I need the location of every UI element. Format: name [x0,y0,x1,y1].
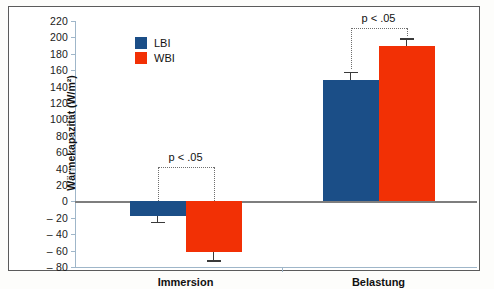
y-tick-mark [71,169,75,170]
significance-bracket-leg [214,167,215,201]
significance-bracket-leg [407,28,408,35]
significance-bracket-leg [158,167,159,201]
y-tick-label: 40 [56,163,68,175]
y-tick-label: 120 [50,97,68,109]
y-tick-mark [71,103,75,104]
x-axis-group-separator [282,267,283,272]
bar-lbi-belastung [323,80,379,201]
significance-label: p < .05 [169,151,203,163]
y-tick-mark [71,234,75,235]
y-tick-label: 20 [56,179,68,191]
y-tick-mark [71,21,75,22]
legend: LBIWBI [135,37,175,67]
significance-label: p < .05 [362,12,396,24]
y-tick-label: 220 [50,15,68,27]
legend-item-wbi[interactable]: WBI [135,52,175,64]
y-tick-label: 60 [56,146,68,158]
y-tick-mark [71,185,75,186]
x-axis-label-belastung: Belastung [352,276,405,288]
y-tick-label: 80 [56,130,68,142]
y-tick-label: 100 [50,113,68,125]
y-tick-label: 180 [50,48,68,60]
y-tick-mark [71,87,75,88]
y-tick-mark [71,37,75,38]
x-axis-label-immersion: Immersion [158,276,214,288]
error-bar-stem [213,252,215,260]
error-bar-cap [400,38,414,40]
legend-swatch-lbi-icon [135,37,147,49]
y-tick-label: – 20 [47,212,68,224]
legend-swatch-wbi-icon [135,52,147,64]
y-tick-mark [71,218,75,219]
y-tick-label: 160 [50,64,68,76]
y-tick-label: – 60 [47,245,68,257]
x-axis-line [75,267,477,268]
significance-bracket-top [158,167,214,168]
y-tick-label: 200 [50,31,68,43]
y-tick-mark [71,54,75,55]
y-tick-mark [71,119,75,120]
bar-wbi-belastung [379,46,435,202]
bar-wbi-immersion [186,201,242,252]
legend-label: LBI [154,37,171,49]
error-bar-cap [344,72,358,74]
y-tick-label: – 80 [47,261,68,273]
y-tick-label: 140 [50,81,68,93]
y-tick-mark [71,152,75,153]
y-tick-mark [71,136,75,137]
chart-figure: Wärmekapazität (W/m²) 220200180160140120… [0,0,494,289]
error-bar-cap [207,260,221,262]
bar-lbi-immersion [130,201,186,216]
significance-bracket-leg [351,28,352,69]
significance-bracket-top [351,28,407,29]
legend-label: WBI [154,52,175,64]
y-tick-mark [71,70,75,71]
chart-frame: Wärmekapazität (W/m²) 220200180160140120… [8,6,480,271]
y-tick-label: 0 [62,195,68,207]
legend-item-lbi[interactable]: LBI [135,37,175,49]
y-tick-mark [71,251,75,252]
error-bar-cap [151,222,165,224]
plot-area: Wärmekapazität (W/m²) 220200180160140120… [75,21,477,267]
y-tick-label: – 40 [47,228,68,240]
